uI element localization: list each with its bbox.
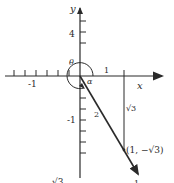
x-tick-label-1: 1 <box>104 66 109 75</box>
y-tick-label-neg1: -1 <box>67 115 76 125</box>
vertical-leg-label: √3 <box>126 104 136 113</box>
point-label: (1, −√3) <box>126 145 163 155</box>
x-axis-label: x <box>137 80 143 91</box>
point-marker <box>123 149 126 152</box>
y-axis <box>80 8 86 178</box>
y-tick-label-4: 4 <box>69 29 75 39</box>
coordinate-diagram: y x 4 -1 -1 1 θ α 2 √3 (1, −√3) √3 1 <box>0 0 174 183</box>
vector-length-label: 2 <box>94 110 99 119</box>
x-axis <box>5 70 162 76</box>
y-axis-label: y <box>69 3 76 14</box>
x-tick-label-neg1: -1 <box>28 79 37 89</box>
vector-arrow <box>80 76 138 174</box>
bottom-fragment-right: 1 <box>134 179 139 183</box>
theta-label: θ <box>69 58 74 67</box>
alpha-label: α <box>87 77 93 86</box>
bottom-fragment-left: √3 <box>52 177 64 183</box>
